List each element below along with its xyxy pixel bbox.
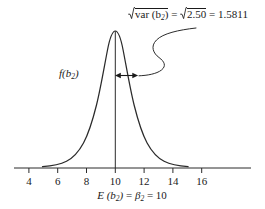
sqrt-value-group: 2.50 xyxy=(180,8,206,20)
std-dev-value: 1.5811 xyxy=(218,8,248,20)
caption-open-paren: (b xyxy=(107,189,116,201)
std-dev-annotation: var (b2) = 2.50 = 1.5811 xyxy=(128,8,248,22)
arrow-head-right xyxy=(132,73,138,79)
radicand-var: var (b2) xyxy=(135,8,168,22)
radical-sign-1 xyxy=(128,7,135,19)
x-axis-caption: E (b2) = β2 = 10 xyxy=(97,190,167,203)
normal-distribution-figure: var (b2) = 2.50 = 1.5811 f(b2) 4 6 8 10 … xyxy=(0,0,265,209)
density-function-label: f(b2) xyxy=(59,68,79,81)
beta-subscript: 2 xyxy=(140,194,144,203)
equals-sign-1: = xyxy=(171,8,177,20)
equals-sign-2: = xyxy=(209,8,215,20)
density-close-paren: ) xyxy=(75,67,79,79)
std-dev-arrow xyxy=(115,73,138,79)
x-tick-label-4: 4 xyxy=(26,176,32,187)
caption-close-paren: ) xyxy=(120,189,124,201)
annotation-leader-line xyxy=(139,28,196,76)
x-tick-label-10: 10 xyxy=(110,176,121,187)
mean-value: 10 xyxy=(156,189,167,201)
radical-bar-2 xyxy=(187,8,206,9)
x-tick-label-12: 12 xyxy=(139,176,150,187)
var-close-paren: ) xyxy=(165,8,169,20)
radical-sign-2 xyxy=(180,7,187,19)
x-tick-label-8: 8 xyxy=(84,176,90,187)
arrow-head-left xyxy=(115,73,121,79)
var-text: var (b xyxy=(135,8,161,20)
x-tick-label-16: 16 xyxy=(196,176,207,187)
x-axis-ticks xyxy=(29,168,202,173)
sqrt-var-group: var (b2) xyxy=(128,8,168,22)
density-open-paren: (b xyxy=(62,67,71,79)
radical-bar-1 xyxy=(135,8,168,9)
plot-canvas xyxy=(0,0,265,209)
caption-equals-2: = xyxy=(147,189,153,201)
caption-equals-1: = xyxy=(126,189,132,201)
expectation-symbol: E xyxy=(97,189,104,201)
x-tick-label-6: 6 xyxy=(55,176,61,187)
x-tick-label-14: 14 xyxy=(167,176,178,187)
radicand-variance-value: 2.50 xyxy=(187,8,206,20)
